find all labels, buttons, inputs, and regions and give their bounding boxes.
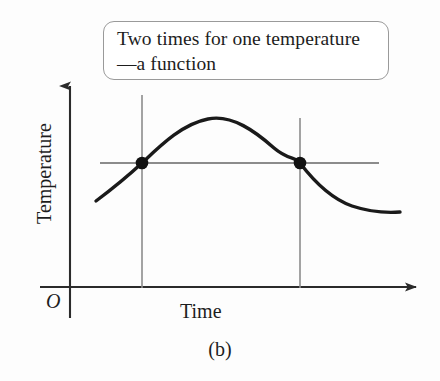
callout-line-1: Two times for one temperature bbox=[117, 28, 360, 49]
y-axis-label: Temperature bbox=[33, 99, 56, 249]
callout-text: Two times for one temperature —a functio… bbox=[117, 26, 385, 76]
figure-container: Two times for one temperature —a functio… bbox=[0, 0, 440, 381]
x-axis-label: Time bbox=[180, 300, 222, 323]
second-time-point bbox=[294, 157, 307, 170]
first-time-point bbox=[136, 157, 149, 170]
callout-line-2: —a function bbox=[117, 51, 385, 76]
panel-label: (b) bbox=[0, 338, 440, 361]
origin-label: O bbox=[46, 290, 60, 313]
